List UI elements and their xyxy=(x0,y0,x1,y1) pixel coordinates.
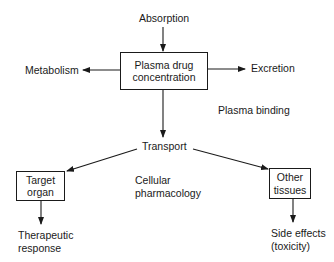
plasma-binding-label: Plasma binding xyxy=(218,104,290,117)
arrow-target-organ xyxy=(67,149,137,171)
transport-label: Transport xyxy=(142,140,187,153)
right-box-line1: Other xyxy=(274,171,307,184)
left-result-line2: response xyxy=(18,242,73,255)
plasma-drug-concentration-box: Plasma drug concentration xyxy=(120,52,208,90)
center-note-line1: Cellular xyxy=(135,174,201,187)
cellular-pharmacology-label: Cellular pharmacology xyxy=(135,174,201,199)
left-result-line1: Therapeutic xyxy=(18,229,73,242)
other-tissues-box: Other tissues xyxy=(269,168,311,199)
central-box-line2: concentration xyxy=(132,71,195,84)
diagram-connectors xyxy=(0,0,334,262)
left-box-line1: Target xyxy=(26,174,55,187)
arrow-other-tissues xyxy=(193,149,268,169)
central-box-line1: Plasma drug xyxy=(132,59,195,72)
excretion-label: Excretion xyxy=(251,62,295,75)
center-note-line2: pharmacology xyxy=(135,187,201,200)
target-organ-box: Target organ xyxy=(16,171,65,201)
metabolism-label: Metabolism xyxy=(25,64,79,77)
absorption-label: Absorption xyxy=(139,12,189,25)
right-result-line2: (toxicity) xyxy=(271,240,326,253)
therapeutic-response-label: Therapeutic response xyxy=(18,229,73,254)
side-effects-label: Side effects (toxicity) xyxy=(271,227,326,252)
left-box-line2: organ xyxy=(26,186,55,199)
right-box-line2: tissues xyxy=(274,184,307,197)
right-result-line1: Side effects xyxy=(271,227,326,240)
